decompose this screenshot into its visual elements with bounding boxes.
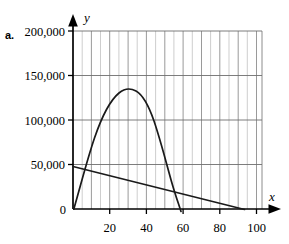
x-axis-label: x <box>268 189 275 204</box>
y-axis-arrowhead <box>68 14 78 27</box>
x-tick-label-100: 100 <box>247 221 266 235</box>
y-tick-label-50000: 50,000 <box>31 158 65 172</box>
graph-plot: 200,000 150,000 100,000 50,000 0 20 40 6… <box>0 0 289 244</box>
y-tick-label-0: 0 <box>60 203 66 217</box>
x-tick-label-20: 20 <box>103 221 116 235</box>
x-tick-label-40: 40 <box>140 221 153 235</box>
y-tick-label-200000: 200,000 <box>24 25 65 39</box>
figure-container: a. <box>0 0 289 244</box>
x-tick-label-60: 60 <box>177 221 190 235</box>
x-axis-arrowhead <box>269 204 282 214</box>
y-tick-label-150000: 150,000 <box>24 69 65 83</box>
x-tick-label-80: 80 <box>214 221 227 235</box>
y-tick-label-100000: 100,000 <box>24 114 65 128</box>
y-axis-label: y <box>82 10 90 25</box>
